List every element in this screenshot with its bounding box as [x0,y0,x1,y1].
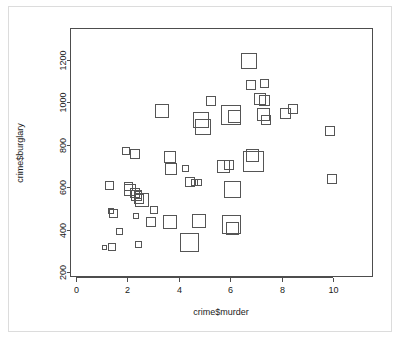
x-tick-label: 0 [74,285,79,295]
data-point-square [206,97,215,106]
data-point-square [146,217,155,226]
data-point-square [108,243,115,250]
y-axis: 20040060080010001200 [58,50,71,280]
data-point-square [246,81,255,90]
data-point-square [134,214,139,219]
data-point-square [182,165,188,171]
x-tick-label: 10 [328,285,338,295]
data-point-square [151,207,158,214]
data-point-square [261,79,269,87]
data-points-layer [102,53,336,252]
data-point-square [131,149,140,158]
x-axis: 0246810 [74,278,339,295]
x-tick-label: 4 [177,285,182,295]
data-point-square [117,229,123,235]
x-axis-title: crime$murder [193,307,249,317]
data-point-square [258,108,270,120]
y-tick-label: 200 [58,265,68,280]
x-tick-label: 6 [228,285,233,295]
scatter-plot: 0246810 20040060080010001200 crime$murde… [0,0,400,343]
data-point-square [225,182,241,198]
data-point-square [227,222,239,234]
data-point-square [156,105,169,118]
data-point-square [102,245,106,249]
data-point-square [136,242,142,248]
x-tick-label: 2 [125,285,130,295]
y-tick-label: 1000 [58,92,68,112]
screenshot-page: 0246810 20040060080010001200 crime$murde… [0,0,400,343]
data-point-square [228,111,240,123]
data-point-square [222,105,241,124]
data-point-square [327,174,336,183]
data-point-square [163,215,176,228]
data-point-square [123,148,130,155]
data-point-square [166,163,177,174]
plot-frame [71,29,373,277]
data-point-square [105,182,113,190]
y-tick-label: 400 [58,223,68,238]
y-tick-label: 600 [58,180,68,195]
data-point-square [164,151,175,162]
data-point-square [180,234,198,252]
data-point-square [224,160,233,169]
data-point-square [242,53,257,68]
data-point-square [193,215,206,228]
y-tick-label: 800 [58,138,68,153]
x-tick-label: 8 [280,285,285,295]
data-point-square [222,216,240,234]
y-axis-title: crime$burglary [15,123,25,183]
data-point-square [326,126,335,135]
data-point-square [218,161,230,173]
y-tick-label: 1200 [58,50,68,70]
